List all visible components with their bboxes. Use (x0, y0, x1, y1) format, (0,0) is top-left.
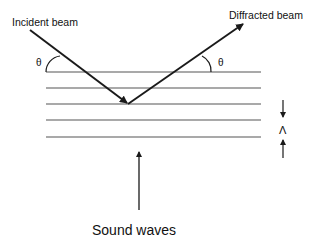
lambda-label: Λ (279, 124, 287, 136)
theta-arc-left (46, 56, 60, 72)
sound-waves-label: Sound waves (92, 222, 176, 238)
diffracted-beam-label: Diffracted beam (229, 9, 303, 21)
incident-beam-arrow (30, 30, 127, 103)
diffracted-beam-arrow (128, 24, 243, 104)
theta-arc-right (202, 56, 211, 72)
layer-lines (46, 72, 261, 137)
incident-beam-label: Incident beam (12, 16, 78, 28)
theta-label-right: θ (218, 57, 224, 68)
theta-label-left: θ (36, 57, 42, 68)
bragg-diffraction-diagram: Incident beam Diffracted beam θ θ Λ Soun… (0, 0, 325, 243)
